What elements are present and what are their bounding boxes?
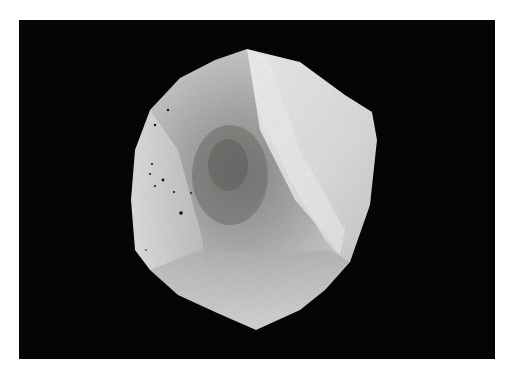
photo-canvas	[0, 0, 509, 372]
crystal-stone	[19, 20, 495, 359]
photo-black-background	[19, 20, 495, 359]
